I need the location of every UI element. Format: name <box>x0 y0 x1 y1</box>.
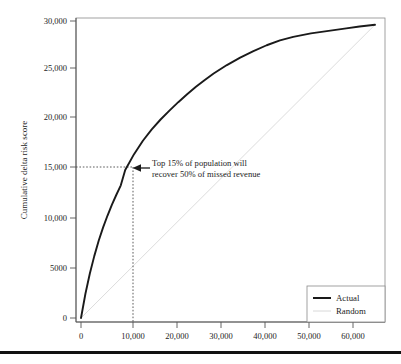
y-tick-label: 30,000 <box>44 16 67 26</box>
bottom-rule <box>0 351 401 354</box>
chart-figure: 0 5000 10,000 15,000 20,000 25,000 30,00… <box>0 0 401 364</box>
x-tick-labels: 0 10,000 20,000 30,000 40,000 50,000 60,… <box>79 331 365 341</box>
x-tick-label: 60,000 <box>341 331 364 341</box>
y-tick-marks <box>70 21 76 318</box>
chart-svg: 0 5000 10,000 15,000 20,000 25,000 30,00… <box>0 0 401 364</box>
y-tick-label: 0 <box>63 313 67 323</box>
x-tick-label: 20,000 <box>165 331 188 341</box>
y-tick-label: 10,000 <box>44 213 67 223</box>
x-tick-label: 40,000 <box>253 331 276 341</box>
annotation-line-1: Top 15% of population will <box>152 158 247 168</box>
y-tick-label: 20,000 <box>44 112 67 122</box>
x-tick-marks <box>81 322 353 328</box>
legend-label-actual: Actual <box>336 293 360 303</box>
legend: Actual Random <box>307 286 385 322</box>
legend-label-random: Random <box>336 306 366 316</box>
x-tick-label: 0 <box>79 331 83 341</box>
annotation-arrow <box>133 164 151 171</box>
y-tick-labels: 0 5000 10,000 15,000 20,000 25,000 30,00… <box>44 16 67 323</box>
x-tick-label: 30,000 <box>209 331 232 341</box>
y-tick-label: 25,000 <box>44 63 67 73</box>
x-tick-label: 10,000 <box>121 331 144 341</box>
y-tick-label: 5000 <box>50 263 67 273</box>
annotation-line-2: recover 50% of missed revenue <box>152 169 261 179</box>
y-axis-title: Cumulative delta risk score <box>19 121 29 220</box>
x-tick-label: 50,000 <box>297 331 320 341</box>
legend-box <box>307 286 385 322</box>
y-tick-label: 15,000 <box>44 162 67 172</box>
